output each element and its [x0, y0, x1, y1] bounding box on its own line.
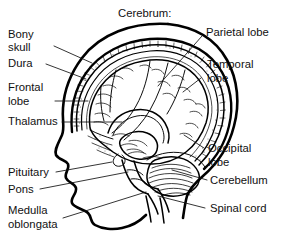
label-parietal-lobe: Parietal lobe	[206, 26, 269, 38]
diagram-canvas: Cerebrum: Bony skull Dura Frontal lobe T…	[0, 0, 283, 242]
label-occipital-lobe-line1: Occipital	[208, 142, 251, 154]
label-occipital-lobe-line2: lobe	[208, 156, 229, 168]
label-frontal-lobe-line1: Frontal	[8, 81, 43, 93]
label-bony-skull-line2: skull	[8, 41, 31, 53]
brain-diagram-figure: Cerebrum: Bony skull Dura Frontal lobe T…	[0, 0, 283, 242]
label-frontal-lobe-line2: lobe	[8, 95, 29, 107]
label-cerebellum: Cerebellum	[210, 174, 268, 186]
label-spinal-cord: Spinal cord	[210, 202, 267, 214]
label-thalamus: Thalamus	[8, 115, 58, 127]
label-temporal-lobe-line1: Temporal	[207, 58, 253, 70]
label-pons: Pons	[8, 183, 34, 195]
label-medulla-line2: oblongata	[8, 218, 58, 230]
label-dura: Dura	[8, 57, 33, 69]
figure-title: Cerebrum:	[118, 7, 171, 19]
label-temporal-lobe-line2: lobe	[207, 72, 228, 84]
label-pituitary: Pituitary	[8, 166, 49, 178]
label-medulla-line1: Medulla	[8, 204, 48, 216]
label-bony-skull-line1: Bony	[8, 28, 34, 40]
